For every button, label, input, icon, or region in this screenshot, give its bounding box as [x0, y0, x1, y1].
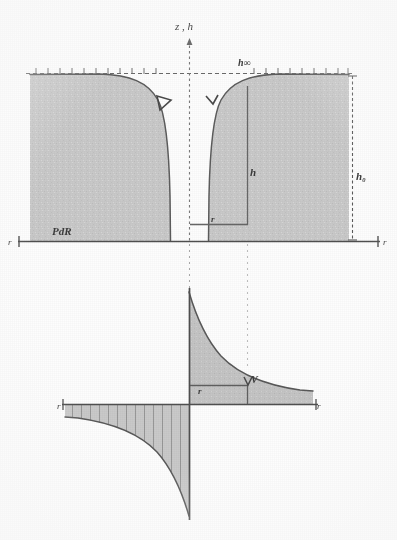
velocity-positive-lobe [189, 292, 313, 404]
inner-height-label: h [250, 166, 256, 178]
region-label-pdr: PdR [52, 225, 72, 237]
asymptote-label: h∞ [238, 57, 251, 68]
lower-panel: r r V r [57, 288, 321, 520]
lower-radius-label: r [198, 386, 202, 396]
velocity-negative-lobe [65, 404, 189, 516]
baseline-left-label: r [8, 237, 12, 247]
inner-radius-label: r [211, 214, 215, 224]
figure-svg: z , h h∞ h₀ PdR r r h r V V [0, 0, 397, 540]
right-film-region [209, 74, 350, 241]
upper-panel: z , h h∞ h₀ PdR r r h r V V [8, 20, 387, 247]
h0-bracket [348, 76, 357, 240]
baseline-right-label: r [383, 237, 387, 247]
vertical-axis-arrow [187, 38, 193, 45]
left-film-region [30, 74, 171, 241]
h0-bracket-label: h₀ [356, 170, 366, 182]
vertical-axis-label: z , h [174, 20, 194, 32]
lower-axis-right-label: r [317, 401, 321, 411]
scanned-figure: z , h h∞ h₀ PdR r r h r V V [0, 0, 397, 540]
lower-axis-left-label: r [57, 401, 61, 411]
